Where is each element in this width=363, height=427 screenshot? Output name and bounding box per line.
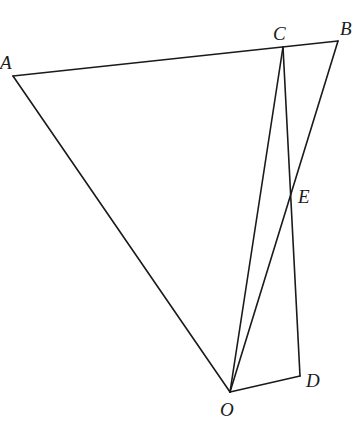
label-o: O [220,399,234,420]
label-d: D [305,370,320,391]
segment-ab [13,41,338,76]
segment-ao [13,76,230,392]
label-e: E [297,186,310,207]
segment-co [230,47,283,392]
segment-bo [230,41,338,392]
label-a: A [0,52,12,73]
label-c: C [273,23,286,44]
geometry-diagram: A B C E D O [0,0,363,427]
segment-od [230,376,300,392]
label-b: B [340,18,352,39]
